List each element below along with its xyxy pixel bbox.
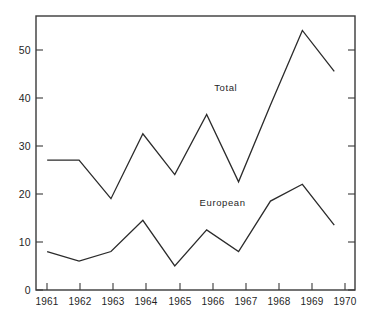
series-annotation-total: Total [214,82,237,93]
y-axis-label-50: 50 [19,44,31,56]
x-axis-label-1964: 1964 [134,296,157,307]
x-axis-ticks [47,283,345,290]
series-annotation-european: European [200,197,246,208]
line-chart-plot: 0 10 20 30 40 50 1961 1962 1963 1964 196… [0,0,388,328]
series-line-total [47,30,334,198]
chart-figure: 0 10 20 30 40 50 1961 1962 1963 1964 196… [0,0,388,328]
x-axis-label-1963: 1963 [101,296,124,307]
y-axis-label-40: 40 [19,92,31,104]
series-line-european [47,184,334,266]
y-axis-label-30: 30 [19,140,31,152]
x-axis-label-1961: 1961 [35,296,58,307]
y-axis-ticks [36,50,43,290]
right-axis-ticks [348,50,355,290]
x-axis-tick-labels: 1961 1962 1963 1964 1965 1966 1967 1968 … [35,296,356,307]
x-axis-label-1967: 1967 [234,296,257,307]
plot-frame [36,16,355,290]
x-axis-label-1965: 1965 [168,296,191,307]
x-axis-label-1962: 1962 [68,296,91,307]
x-axis-label-1966: 1966 [201,296,224,307]
x-axis-label-1969: 1969 [300,296,323,307]
y-axis-label-20: 20 [19,188,31,200]
x-axis-label-1968: 1968 [267,296,290,307]
y-axis-tick-labels: 0 10 20 30 40 50 [19,44,31,296]
y-axis-label-0: 0 [25,284,31,296]
x-axis-label-1970: 1970 [333,296,356,307]
y-axis-label-10: 10 [19,236,31,248]
